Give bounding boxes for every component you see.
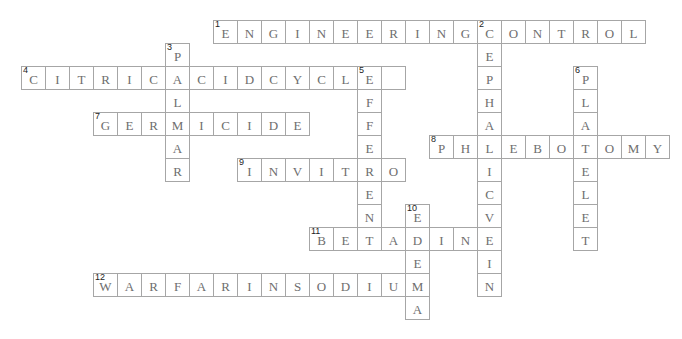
- crossword-cell[interactable]: Y: [285, 66, 310, 90]
- crossword-cell[interactable]: I: [237, 273, 262, 297]
- crossword-cell[interactable]: G: [453, 20, 478, 44]
- crossword-cell[interactable]: I: [285, 20, 310, 44]
- crossword-cell[interactable]: N: [309, 20, 334, 44]
- crossword-cell[interactable]: N: [357, 204, 382, 228]
- crossword-cell[interactable]: T: [69, 66, 94, 90]
- crossword-cell[interactable]: V: [285, 158, 310, 182]
- crossword-cell[interactable]: O: [501, 20, 526, 44]
- crossword-cell[interactable]: R: [93, 66, 118, 90]
- crossword-cell[interactable]: E: [333, 227, 358, 251]
- crossword-cell[interactable]: I: [213, 66, 238, 90]
- crossword-cell[interactable]: O: [549, 135, 574, 159]
- crossword-cell[interactable]: A: [381, 227, 406, 251]
- crossword-cell[interactable]: C: [477, 181, 502, 205]
- crossword-cell[interactable]: O: [309, 273, 334, 297]
- crossword-cell[interactable]: C: [213, 112, 238, 136]
- crossword-cell[interactable]: N: [237, 20, 262, 44]
- crossword-cell[interactable]: F: [165, 273, 190, 297]
- crossword-cell[interactable]: T: [573, 135, 598, 159]
- crossword-cell[interactable]: I: [189, 112, 214, 136]
- crossword-cell[interactable]: G7: [93, 112, 118, 136]
- crossword-cell[interactable]: M: [405, 273, 430, 297]
- crossword-cell[interactable]: E: [477, 227, 502, 251]
- crossword-cell[interactable]: O: [597, 20, 622, 44]
- crossword-cell[interactable]: Y: [645, 135, 670, 159]
- crossword-cell[interactable]: R: [165, 158, 190, 182]
- crossword-cell[interactable]: I: [429, 227, 454, 251]
- crossword-cell[interactable]: C: [141, 66, 166, 90]
- crossword-cell[interactable]: E: [357, 20, 382, 44]
- crossword-cell[interactable]: N: [261, 273, 286, 297]
- crossword-cell[interactable]: S: [285, 273, 310, 297]
- crossword-cell[interactable]: P: [477, 66, 502, 90]
- crossword-cell[interactable]: P8: [429, 135, 454, 159]
- crossword-cell[interactable]: C: [189, 66, 214, 90]
- crossword-cell[interactable]: D: [261, 112, 286, 136]
- crossword-cell[interactable]: I: [309, 158, 334, 182]
- crossword-cell[interactable]: E: [357, 181, 382, 205]
- crossword-cell[interactable]: N: [429, 20, 454, 44]
- crossword-cell[interactable]: I: [237, 112, 262, 136]
- crossword-cell[interactable]: E: [117, 112, 142, 136]
- crossword-cell[interactable]: L: [621, 20, 646, 44]
- crossword-cell[interactable]: T: [333, 158, 358, 182]
- crossword-cell[interactable]: W12: [93, 273, 118, 297]
- crossword-cell[interactable]: L: [333, 66, 358, 90]
- crossword-cell[interactable]: E: [573, 158, 598, 182]
- crossword-cell[interactable]: E: [333, 20, 358, 44]
- crossword-cell[interactable]: N: [453, 227, 478, 251]
- crossword-cell[interactable]: L: [573, 181, 598, 205]
- crossword-cell[interactable]: B: [525, 135, 550, 159]
- crossword-cell[interactable]: E10: [405, 204, 430, 228]
- crossword-cell[interactable]: R: [357, 158, 382, 182]
- crossword-cell[interactable]: R: [141, 273, 166, 297]
- crossword-cell[interactable]: E: [501, 135, 526, 159]
- crossword-cell[interactable]: F: [357, 89, 382, 113]
- crossword-cell[interactable]: A: [573, 112, 598, 136]
- crossword-cell[interactable]: M: [621, 135, 646, 159]
- crossword-cell[interactable]: E: [477, 43, 502, 67]
- crossword-cell[interactable]: E: [357, 135, 382, 159]
- crossword-cell[interactable]: D: [333, 273, 358, 297]
- crossword-cell[interactable]: P6: [573, 66, 598, 90]
- crossword-cell[interactable]: H: [477, 89, 502, 113]
- crossword-cell[interactable]: I: [357, 273, 382, 297]
- crossword-cell[interactable]: [381, 66, 406, 90]
- crossword-cell[interactable]: C2: [477, 20, 502, 44]
- crossword-cell[interactable]: I: [477, 158, 502, 182]
- crossword-cell[interactable]: G: [261, 20, 286, 44]
- crossword-cell[interactable]: R: [573, 20, 598, 44]
- crossword-cell[interactable]: M: [165, 112, 190, 136]
- crossword-cell[interactable]: C: [309, 66, 334, 90]
- crossword-cell[interactable]: F: [357, 112, 382, 136]
- crossword-cell[interactable]: V: [477, 204, 502, 228]
- crossword-cell[interactable]: A: [477, 112, 502, 136]
- crossword-cell[interactable]: E: [405, 250, 430, 274]
- crossword-cell[interactable]: T: [357, 227, 382, 251]
- crossword-cell[interactable]: I9: [237, 158, 262, 182]
- crossword-cell[interactable]: A: [165, 66, 190, 90]
- crossword-cell[interactable]: B11: [309, 227, 334, 251]
- crossword-cell[interactable]: R: [141, 112, 166, 136]
- crossword-cell[interactable]: R: [213, 273, 238, 297]
- crossword-cell[interactable]: I: [45, 66, 70, 90]
- crossword-cell[interactable]: I: [477, 250, 502, 274]
- crossword-cell[interactable]: T: [549, 20, 574, 44]
- crossword-cell[interactable]: I: [405, 20, 430, 44]
- crossword-cell[interactable]: U: [381, 273, 406, 297]
- crossword-cell[interactable]: O: [381, 158, 406, 182]
- crossword-cell[interactable]: L: [165, 89, 190, 113]
- crossword-cell[interactable]: O: [597, 135, 622, 159]
- crossword-cell[interactable]: P3: [165, 43, 190, 67]
- crossword-cell[interactable]: A: [189, 273, 214, 297]
- crossword-cell[interactable]: E: [573, 204, 598, 228]
- crossword-cell[interactable]: L: [573, 89, 598, 113]
- crossword-cell[interactable]: A: [405, 296, 430, 320]
- crossword-cell[interactable]: L: [477, 135, 502, 159]
- crossword-cell[interactable]: C: [261, 66, 286, 90]
- crossword-cell[interactable]: E1: [213, 20, 238, 44]
- crossword-cell[interactable]: R: [381, 20, 406, 44]
- crossword-cell[interactable]: C4: [21, 66, 46, 90]
- crossword-cell[interactable]: A: [165, 135, 190, 159]
- crossword-cell[interactable]: N: [477, 273, 502, 297]
